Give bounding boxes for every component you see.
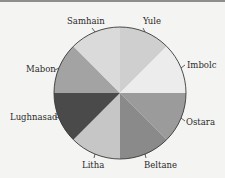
label-ostara: Ostara (186, 117, 215, 127)
label-beltane: Beltane (144, 160, 177, 170)
label-litha: Litha (82, 160, 104, 170)
label-lughnasad: Lughnasad (10, 112, 58, 122)
label-imbolc: Imbolc (187, 60, 217, 70)
label-samhain: Samhain (67, 16, 105, 26)
pie-chart: Yule Imbolc Ostara Beltane Litha Lughnas… (0, 0, 225, 178)
pie-slices (54, 27, 186, 159)
label-mabon: Mabon (26, 64, 56, 74)
label-yule: Yule (142, 16, 161, 26)
